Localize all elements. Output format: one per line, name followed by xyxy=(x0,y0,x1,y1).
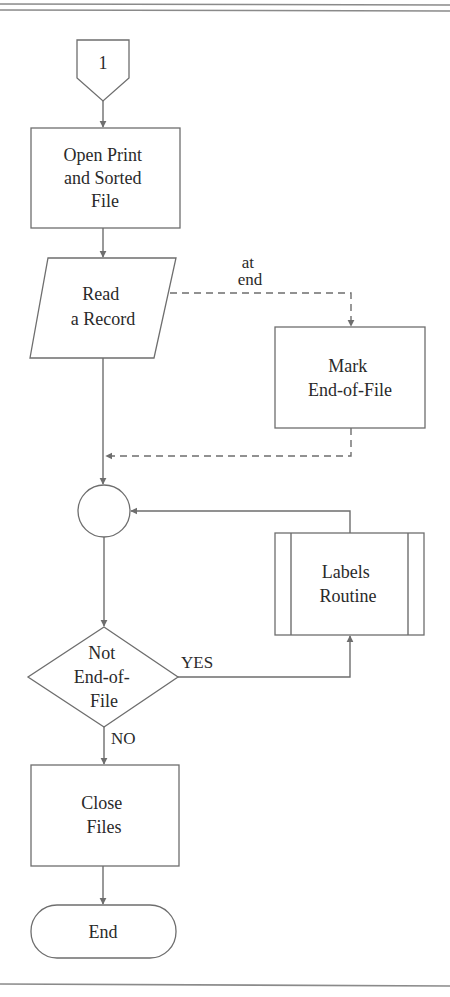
node-label: File xyxy=(91,191,119,211)
decision-not-eof: Not End-of- File xyxy=(28,627,178,727)
terminator-end: End xyxy=(31,905,176,958)
node-label: File xyxy=(90,691,118,711)
edge-labels-to-junction xyxy=(131,511,350,533)
process-open-files: Open Print and Sorted File xyxy=(31,128,180,228)
node-label: End-of-File xyxy=(308,380,392,400)
node-label: Files xyxy=(86,817,121,837)
node-label: Mark xyxy=(328,356,367,376)
flowchart-canvas: 1 Open Print and Sorted File Read a Reco… xyxy=(0,0,450,997)
edge-decision-yes: YES xyxy=(178,636,350,677)
edge-read-to-mark-at-end: at end xyxy=(170,253,351,326)
process-close-files: Close Files xyxy=(31,765,179,866)
top-rule xyxy=(0,4,450,11)
node-label: End-of- xyxy=(74,667,130,687)
node-label: Routine xyxy=(320,586,377,606)
node-label: Labels xyxy=(322,562,370,582)
node-label: Not xyxy=(88,643,115,663)
junction-circle xyxy=(78,485,130,537)
node-label: Read xyxy=(82,284,119,304)
node-label: End xyxy=(89,922,118,942)
edge-mark-to-main xyxy=(106,428,351,456)
node-label: and Sorted xyxy=(64,168,141,188)
svg-text:at end: at end xyxy=(238,253,263,289)
process-mark-eof: Mark End-of-File xyxy=(275,327,425,428)
connector-label: 1 xyxy=(99,53,108,73)
edge-label-end: end xyxy=(238,270,263,289)
edge-label-yes: YES xyxy=(181,653,213,672)
predefined-labels-routine: Labels Routine xyxy=(275,533,424,635)
edge-decision-no: NO xyxy=(104,727,136,764)
bottom-rule xyxy=(0,984,450,986)
edge-label-no: NO xyxy=(111,729,136,748)
node-label: a Record xyxy=(71,309,135,329)
node-label: Close xyxy=(81,793,122,813)
node-label: Open Print xyxy=(64,145,143,165)
offpage-connector: 1 xyxy=(77,40,129,101)
io-read-record: Read a Record xyxy=(30,258,176,358)
